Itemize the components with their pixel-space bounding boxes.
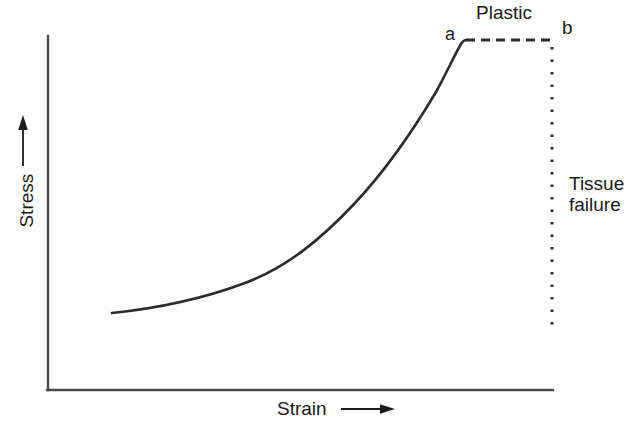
x-axis-right-arrow xyxy=(341,404,395,414)
point-a-label: a xyxy=(445,24,455,44)
y-axis-label: Stress xyxy=(16,156,37,246)
point-b-label: b xyxy=(562,17,573,38)
tissue-failure-line-1: Tissue xyxy=(569,173,624,194)
plastic-region-label: Plastic xyxy=(476,2,532,23)
diagram-canvas xyxy=(0,0,635,436)
stress-strain-figure: Plastic a b Tissuefailure Strain Stress xyxy=(0,0,635,436)
x-axis-label: Strain xyxy=(277,398,327,419)
tissue-failure-label: Tissuefailure xyxy=(569,173,624,216)
curve-scan-gap xyxy=(251,282,261,286)
tissue-failure-line-2: failure xyxy=(569,194,624,215)
elastic-curve xyxy=(112,40,466,313)
